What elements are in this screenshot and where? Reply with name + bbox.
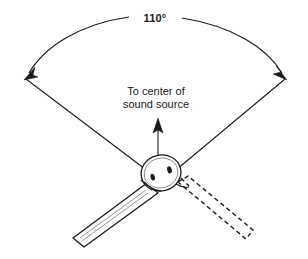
microphone-body-dashed xyxy=(178,176,253,239)
microphone-handle-solid xyxy=(73,183,158,247)
source-direction-label: To center of sound source xyxy=(123,85,189,110)
angle-arc-group xyxy=(29,17,282,73)
microphone-body-solid xyxy=(73,180,158,247)
source-label-line-2: sound source xyxy=(123,98,189,110)
arrowhead-right xyxy=(273,66,287,80)
angle-arc-left-segment xyxy=(29,17,129,73)
arrowhead-right-glyph xyxy=(273,66,287,80)
radial-right-line xyxy=(176,79,285,170)
source-label-line-1: To center of xyxy=(127,85,185,97)
angle-arc-right-segment xyxy=(182,18,282,73)
microphone-handle-dashed-collar xyxy=(181,178,189,186)
microphone-handle-highlight-2 xyxy=(82,193,148,241)
microphone-handle-highlight-1 xyxy=(80,190,146,238)
angle-label: 110° xyxy=(144,12,167,24)
diagram-canvas: 110° To center of sound source xyxy=(0,0,308,259)
microphone-angle-diagram: 110° To center of sound source xyxy=(0,0,308,259)
